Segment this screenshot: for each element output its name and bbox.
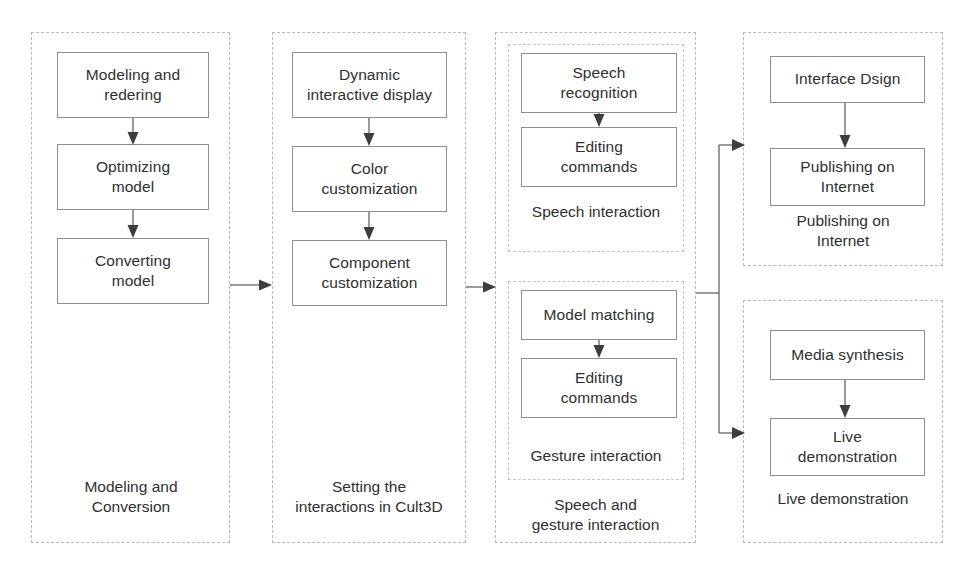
- node-label-line2: Internet: [821, 178, 874, 195]
- node-dynamic-interactive-display: Dynamic interactive display: [292, 52, 447, 118]
- caption-speech-and-gesture-interaction: Speech and gesture interaction: [497, 495, 694, 536]
- node-publishing-on-internet: Publishing on Internet: [770, 148, 925, 206]
- connector-col3-to-publishing: [719, 139, 745, 151]
- node-component-customization: Component customization: [292, 240, 447, 306]
- node-interface-dsign: Interface Dsign: [770, 56, 925, 103]
- caption-modeling-and-conversion: Modeling and Conversion: [36, 477, 226, 518]
- node-editing-commands-speech: Editing commands: [521, 127, 677, 187]
- caption-text: Gesture interaction: [531, 447, 662, 464]
- node-label-line2: commands: [561, 389, 638, 406]
- node-label-line1: Dynamic: [339, 66, 400, 83]
- caption-line2: gesture interaction: [532, 516, 660, 533]
- node-optimizing-model: Optimizing model: [57, 144, 209, 210]
- node-label-line1: Publishing on: [800, 158, 894, 175]
- node-model-matching: Model matching: [521, 290, 677, 340]
- caption-text: Speech interaction: [532, 203, 660, 220]
- node-label-line1: Model matching: [544, 306, 655, 323]
- node-media-synthesis: Media synthesis: [770, 330, 925, 380]
- connector-col1-to-col2: [230, 280, 272, 291]
- connector-col2-to-col3: [466, 282, 496, 293]
- caption-line2: interactions in Cult3D: [295, 498, 442, 515]
- caption-line2: Conversion: [92, 498, 170, 515]
- caption-line2: Internet: [817, 232, 870, 249]
- caption-gesture-interaction: Gesture interaction: [506, 446, 686, 466]
- node-editing-commands-gesture: Editing commands: [521, 358, 677, 418]
- node-label-line1: Color: [351, 160, 389, 177]
- caption-line1: Speech and: [554, 496, 637, 513]
- node-label-line1: Speech: [572, 64, 625, 81]
- node-label-line2: demonstration: [798, 448, 898, 465]
- node-label-line2: commands: [561, 158, 638, 175]
- flowchart-canvas: Modeling and redering Optimizing model C…: [0, 0, 973, 579]
- caption-line1: Live demonstration: [778, 490, 909, 507]
- node-label-line2: interactive display: [307, 86, 432, 103]
- caption-speech-interaction: Speech interaction: [508, 202, 684, 222]
- node-label-line1: Media synthesis: [791, 346, 904, 363]
- connector-col3-to-live-demo: [719, 427, 745, 439]
- caption-live-demonstration: Live demonstration: [745, 489, 941, 509]
- node-label-line1: Converting: [95, 252, 171, 269]
- caption-line1: Publishing on: [796, 212, 889, 229]
- node-label-line2: redering: [104, 86, 162, 103]
- node-label-line2: customization: [321, 274, 417, 291]
- node-label-line1: Live: [833, 428, 862, 445]
- caption-line1: Modeling and: [84, 478, 177, 495]
- node-label-line1: Interface Dsign: [795, 70, 901, 87]
- node-label-line2: customization: [321, 180, 417, 197]
- node-color-customization: Color customization: [292, 146, 447, 212]
- node-label-line2: model: [112, 178, 155, 195]
- node-label-line2: recognition: [561, 84, 638, 101]
- node-speech-recognition: Speech recognition: [521, 53, 677, 113]
- node-label-line1: Modeling and: [86, 66, 180, 83]
- node-label-line1: Editing: [575, 138, 623, 155]
- node-label-line1: Optimizing: [96, 158, 170, 175]
- caption-setting-the-interactions-in-cult3d: Setting the interactions in Cult3D: [274, 477, 464, 518]
- node-label-line1: Component: [329, 254, 410, 271]
- node-modeling-and-redering: Modeling and redering: [57, 52, 209, 118]
- node-label-line2: model: [112, 272, 155, 289]
- node-converting-model: Converting model: [57, 238, 209, 304]
- connector-col3-branch-trunk: [696, 145, 719, 433]
- caption-line1: Setting the: [332, 478, 406, 495]
- node-label-line1: Editing: [575, 369, 623, 386]
- caption-publishing-on-internet: Publishing on Internet: [745, 211, 941, 252]
- node-live-demonstration: Live demonstration: [770, 418, 925, 476]
